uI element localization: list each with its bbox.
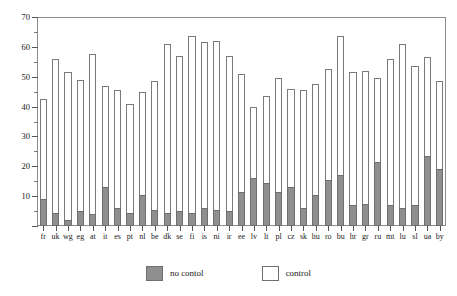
x-tick-label: ru <box>374 232 381 241</box>
bar-segment-control <box>89 54 96 226</box>
x-tick <box>93 226 94 231</box>
bar-segment-no-control <box>176 211 183 226</box>
x-tick <box>204 226 205 231</box>
bar-segment-control <box>52 59 59 226</box>
bar-segment-no-control <box>399 208 406 226</box>
x-tick-label: uk <box>52 232 60 241</box>
bar-segment-no-control <box>250 178 257 226</box>
x-tick-label: by <box>436 232 444 241</box>
bar-segment-no-control <box>164 213 171 226</box>
x-tick <box>316 226 317 231</box>
x-tick-label: wg <box>63 232 73 241</box>
bar-group <box>387 17 394 226</box>
x-tick-label: sl <box>412 232 417 241</box>
bar-group <box>201 17 208 226</box>
chart-legend: no contol control <box>0 258 457 288</box>
bar-group <box>436 17 443 226</box>
bar-group <box>312 17 319 226</box>
y-tick-label: 50 <box>22 72 31 81</box>
y-tick-label: 10 <box>22 192 31 201</box>
bar-segment-control <box>349 72 356 226</box>
bar-segment-control <box>188 36 195 226</box>
x-tick-label: is <box>202 232 207 241</box>
bar-group <box>411 17 418 226</box>
x-tick <box>180 226 181 231</box>
x-tick <box>365 226 366 231</box>
y-tick-label: 30 <box>22 132 31 141</box>
x-tick <box>118 226 119 231</box>
x-tick-label: be <box>151 232 159 241</box>
x-tick <box>266 226 267 231</box>
x-tick <box>242 226 243 231</box>
bar-segment-no-control <box>312 195 319 226</box>
x-tick <box>353 226 354 231</box>
bar-group <box>188 17 195 226</box>
bar-segment-no-control <box>89 214 96 226</box>
bar-segment-no-control <box>424 156 431 226</box>
x-tick-label: fi <box>189 232 194 241</box>
bar-segment-control <box>77 80 84 226</box>
bar-segment-no-control <box>287 187 294 226</box>
y-tick-label: 60 <box>22 43 31 52</box>
x-tick <box>105 226 106 231</box>
bar-segment-no-control <box>263 183 270 226</box>
x-tick <box>56 226 57 231</box>
bar-segment-no-control <box>77 211 84 226</box>
x-tick-label: es <box>114 232 121 241</box>
bar-group <box>287 17 294 226</box>
bar-chart: 10203040506070 frukwgegatitesptnlbedksef… <box>0 0 457 296</box>
y-tick-label: 20 <box>22 162 31 171</box>
x-tick-label: ua <box>424 232 432 241</box>
x-tick-label: nl <box>139 232 145 241</box>
bar-segment-no-control <box>139 195 146 226</box>
x-tick <box>403 226 404 231</box>
x-tick-label: fr <box>41 232 46 241</box>
bar-segment-no-control <box>325 180 332 226</box>
bar-group <box>374 17 381 226</box>
x-tick <box>279 226 280 231</box>
bar-group <box>325 17 332 226</box>
bars-layer <box>37 17 446 226</box>
bar-segment-control <box>213 41 220 226</box>
x-tick <box>254 226 255 231</box>
x-tick <box>142 226 143 231</box>
x-tick <box>68 226 69 231</box>
x-tick <box>192 226 193 231</box>
legend-label-no-control: no contol <box>170 268 204 278</box>
x-tick-label: dk <box>163 232 171 241</box>
bar-group <box>64 17 71 226</box>
x-tick <box>328 226 329 231</box>
bar-segment-no-control <box>238 192 245 226</box>
legend-entry-no-control: no contol <box>146 266 204 281</box>
x-tick <box>167 226 168 231</box>
bar-segment-no-control <box>114 208 121 226</box>
bar-segment-no-control <box>275 192 282 226</box>
bar-segment-control <box>64 72 71 226</box>
y-tick-label: 40 <box>22 102 31 111</box>
bar-group <box>399 17 406 226</box>
bar-segment-no-control <box>349 205 356 226</box>
y-axis: 10203040506070 <box>0 0 38 296</box>
bar-segment-no-control <box>102 187 109 226</box>
x-tick <box>80 226 81 231</box>
bar-group <box>176 17 183 226</box>
x-tick-label: bu <box>337 232 345 241</box>
x-tick <box>303 226 304 231</box>
bar-group <box>337 17 344 226</box>
x-tick-label: hr <box>350 232 357 241</box>
bar-group <box>40 17 47 226</box>
bar-segment-no-control <box>213 210 220 226</box>
bar-segment-control <box>387 59 394 226</box>
x-tick <box>43 226 44 231</box>
x-tick <box>291 226 292 231</box>
bar-segment-control <box>176 56 183 226</box>
bar-group <box>114 17 121 226</box>
bar-segment-no-control <box>387 205 394 226</box>
x-tick-label: cz <box>288 232 295 241</box>
x-tick-label: at <box>90 232 96 241</box>
x-tick-label: mt <box>386 232 394 241</box>
legend-swatch-empty-square-icon <box>262 266 279 281</box>
bar-segment-no-control <box>362 204 369 226</box>
bar-group <box>250 17 257 226</box>
bar-group <box>362 17 369 226</box>
